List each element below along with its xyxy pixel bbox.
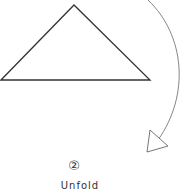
arrowhead-icon [147, 130, 168, 152]
diagram-canvas [0, 0, 185, 189]
triangle-shape [1, 5, 150, 80]
step-caption: Unfold [30, 180, 130, 189]
curved-arrow-path [148, 0, 179, 140]
step-number: ② [62, 158, 86, 173]
